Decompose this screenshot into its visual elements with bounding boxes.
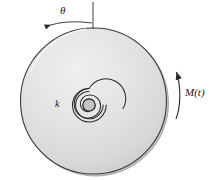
schematic-drawing	[0, 0, 211, 180]
theta-label: θ	[60, 5, 65, 16]
spring-hub	[83, 99, 95, 111]
moment-arc-arrow	[176, 72, 180, 119]
figure-canvas: θ k M(t)	[0, 0, 211, 180]
moment-label: M(t)	[185, 87, 205, 98]
spring-constant-label: k	[55, 99, 59, 109]
angle-arc-arrow	[45, 22, 92, 27]
